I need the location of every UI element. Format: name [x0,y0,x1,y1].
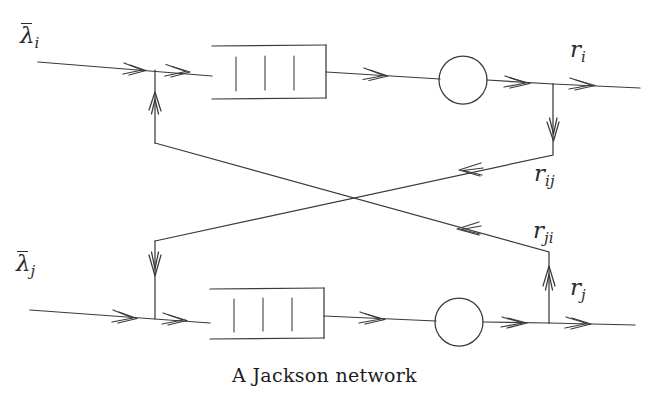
overline-bar-i [21,23,32,24]
network-diagram-canvas: .ln { stroke: #3a3a3a; stroke-width: 1.2… [0,0,649,409]
server-output-link-i [487,76,553,88]
arrival-line-i [38,62,212,77]
label-r-ij: rij [534,162,555,189]
jackson-network-figure: .ln { stroke: #3a3a3a; stroke-width: 1.2… [0,0,649,409]
overline-bar-j [17,251,28,252]
queue-to-server-link-j [324,312,436,324]
departure-link-i [553,78,640,90]
merge-riser-j [149,241,161,319]
label-lambda-bar-i: λ i [20,22,40,51]
label-r-i: ri [570,38,586,65]
label-r-ji: rji [533,219,554,246]
queue-buffer-j [210,288,324,339]
r-glyph-ji: r [533,217,544,243]
route-link-ij [155,84,559,241]
route-link-ji [155,143,555,323]
server-circle-j [435,298,483,346]
server-circle-i [439,56,487,104]
r-glyph-i: r [570,36,581,62]
r-subscript-j: j [581,286,586,304]
r-subscript-ji: ji [544,229,554,247]
queue-to-server-link-i [326,68,440,81]
lambda-glyph-j: λ [16,250,31,276]
r-subscript-ij: ij [545,172,555,190]
r-glyph-ij: r [534,160,545,186]
r-subscript-i: i [581,48,586,66]
label-r-j: rj [570,276,586,303]
lambda-subscript-i: i [35,34,40,52]
merge-riser-i [149,70,161,143]
lambda-subscript-j: j [31,262,36,280]
lambda-glyph-i: λ [20,22,35,48]
label-lambda-bar-j: λ j [16,250,35,279]
server-output-link-j [483,317,549,328]
queue-buffer-i [212,45,326,99]
figure-caption: A Jackson network [0,364,649,386]
r-glyph-j: r [570,274,581,300]
departure-link-j [549,317,635,329]
arrival-line-j [30,310,210,325]
